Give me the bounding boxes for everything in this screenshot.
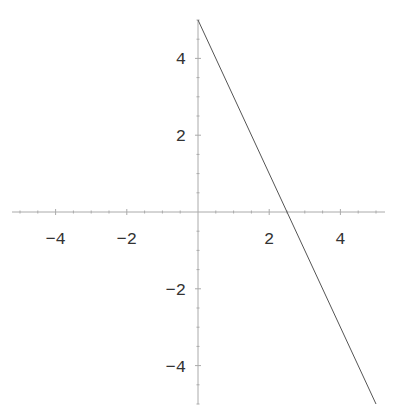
x-tick-label: −4 <box>45 230 65 249</box>
y-tick-label: 2 <box>176 127 186 146</box>
y-tick-label: −4 <box>166 358 186 377</box>
x-tick-label: 2 <box>264 230 274 249</box>
y-tick-label: −2 <box>166 281 186 300</box>
plot-area: −4−22442−2−4 <box>0 0 393 417</box>
y-tick-label: 4 <box>176 50 186 69</box>
x-tick-label: 4 <box>335 230 345 249</box>
x-tick-label: −2 <box>117 230 137 249</box>
tick-labels: −4−22442−2−4 <box>45 50 345 376</box>
